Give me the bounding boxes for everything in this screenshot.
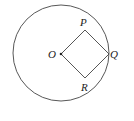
label-p: P [79,16,87,28]
label-o: O [48,48,56,60]
geometry-diagram: O P Q R [0,0,134,121]
square-opqr [61,30,109,78]
center-point-o [60,53,63,56]
label-q: Q [110,48,118,60]
label-r: R [80,81,88,93]
